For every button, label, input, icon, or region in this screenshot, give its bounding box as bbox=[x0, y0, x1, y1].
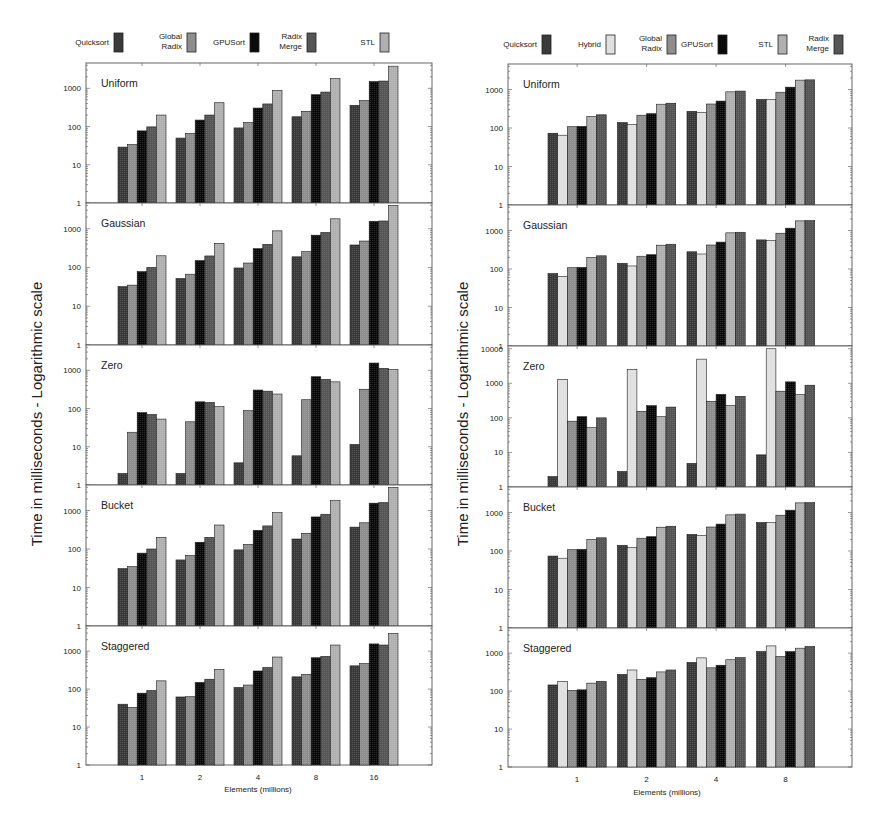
bar-texture bbox=[656, 104, 666, 205]
bar-texture bbox=[786, 510, 796, 628]
legend-item-global-radix: GlobalRadix bbox=[159, 32, 196, 52]
y-tick-label: 1 bbox=[499, 624, 504, 633]
panel-bucket: 1101001000Bucket bbox=[485, 487, 852, 633]
y-tick-label: 100 bbox=[68, 685, 82, 694]
legend-label: Quicksort bbox=[75, 38, 110, 47]
right-chart: QuicksortHybridGlobalRadixGPUSortSTLRadi… bbox=[481, 34, 852, 784]
y-tick-label: 100 bbox=[490, 414, 504, 423]
bar-texture bbox=[214, 669, 224, 765]
bar-texture bbox=[558, 681, 568, 767]
bar-texture bbox=[776, 515, 786, 628]
bar-texture bbox=[637, 411, 647, 487]
bar-texture bbox=[805, 503, 815, 628]
y-tick-label: 1000 bbox=[63, 647, 81, 656]
bar-texture bbox=[706, 527, 716, 628]
bar-texture bbox=[244, 411, 254, 485]
legend: QuicksortGlobalRadixGPUSortRadixMergeSTL bbox=[75, 32, 389, 52]
bar-texture bbox=[757, 523, 767, 628]
bar-texture bbox=[757, 240, 767, 346]
bar-texture bbox=[687, 662, 697, 767]
y-tick-label: 1 bbox=[499, 201, 504, 210]
bar-texture bbox=[360, 523, 370, 626]
bar-texture bbox=[321, 92, 331, 203]
bar-texture bbox=[736, 232, 746, 346]
bar-texture bbox=[795, 221, 805, 346]
bar-texture bbox=[379, 368, 389, 485]
bar-texture bbox=[577, 126, 587, 205]
y-tick-label: 100 bbox=[490, 265, 504, 274]
bar-texture bbox=[726, 660, 736, 767]
legend-label: Radix bbox=[162, 42, 182, 51]
bar-texture bbox=[805, 80, 815, 205]
legend-item-hybrid: Hybrid bbox=[578, 35, 615, 54]
bar-texture bbox=[311, 377, 321, 485]
y-tick-label: 1000 bbox=[485, 379, 503, 388]
bar-texture bbox=[330, 645, 340, 765]
bar-texture bbox=[253, 530, 263, 626]
bar-texture bbox=[321, 232, 331, 345]
bar-texture bbox=[687, 463, 697, 487]
bar-texture bbox=[263, 391, 273, 485]
bar-texture bbox=[330, 382, 340, 485]
bar-texture bbox=[656, 417, 666, 487]
x-tick-label: 1 bbox=[575, 775, 580, 784]
bar-texture bbox=[716, 101, 726, 205]
panel-title: Staggered bbox=[523, 642, 572, 654]
y-tick-label: 1000 bbox=[63, 507, 81, 516]
bar-texture bbox=[302, 111, 312, 203]
y-tick-label: 100 bbox=[68, 263, 82, 272]
panel-title: Staggered bbox=[101, 640, 150, 652]
bar-texture bbox=[128, 144, 138, 203]
bar-texture bbox=[128, 707, 138, 765]
y-tick-label: 1000 bbox=[63, 225, 81, 234]
bar-texture bbox=[548, 477, 558, 487]
bar-texture bbox=[736, 514, 746, 628]
bar-texture bbox=[757, 100, 767, 205]
bar-texture bbox=[766, 646, 776, 767]
bar-texture bbox=[388, 634, 398, 765]
bar-texture bbox=[292, 257, 302, 345]
y-tick-label: 100 bbox=[490, 687, 504, 696]
bar-texture bbox=[186, 274, 196, 345]
bar-texture bbox=[567, 550, 577, 628]
bar-texture bbox=[627, 670, 637, 767]
bar-texture bbox=[118, 147, 128, 203]
legend-item-global-radix: GlobalRadix bbox=[639, 34, 676, 54]
bar-texture bbox=[302, 252, 312, 345]
bar-texture bbox=[706, 401, 716, 487]
right-y-axis-label: Time in milliseconds - Logarithmic scale bbox=[454, 282, 471, 547]
y-tick-label: 1 bbox=[77, 199, 82, 208]
legend: QuicksortHybridGlobalRadixGPUSortSTLRadi… bbox=[503, 34, 843, 54]
legend-label: Global bbox=[639, 34, 662, 43]
bar-texture bbox=[627, 125, 637, 205]
bar-texture bbox=[766, 349, 776, 487]
bar-texture bbox=[388, 66, 398, 203]
bar-texture bbox=[176, 473, 186, 485]
bar-texture bbox=[369, 363, 379, 485]
x-tick-label: 4 bbox=[714, 775, 719, 784]
bar-texture bbox=[263, 526, 273, 626]
x-tick-label: 4 bbox=[256, 773, 261, 782]
bar-texture bbox=[234, 550, 244, 626]
bar-texture bbox=[548, 133, 558, 205]
bar-texture bbox=[263, 244, 273, 345]
bar-texture bbox=[263, 668, 273, 765]
bar-texture bbox=[627, 370, 637, 487]
panel-gaussian: 1101001000Gaussian bbox=[63, 203, 432, 350]
y-tick-label: 10 bbox=[494, 586, 503, 595]
bar-texture bbox=[360, 101, 370, 203]
bar-texture bbox=[647, 114, 657, 205]
bar-texture bbox=[697, 359, 707, 487]
bar-texture bbox=[311, 517, 321, 626]
y-tick-label: 1 bbox=[77, 761, 82, 770]
panel-title: Gaussian bbox=[101, 217, 146, 229]
bar-texture bbox=[666, 670, 676, 767]
bar-texture bbox=[697, 658, 707, 767]
bar-texture bbox=[292, 539, 302, 626]
legend-label: Merge bbox=[806, 44, 829, 53]
panel-title: Zero bbox=[523, 360, 545, 372]
bar-texture bbox=[687, 534, 697, 628]
bar-texture bbox=[656, 527, 666, 628]
bar-texture bbox=[118, 569, 128, 626]
bar-texture bbox=[302, 400, 312, 485]
